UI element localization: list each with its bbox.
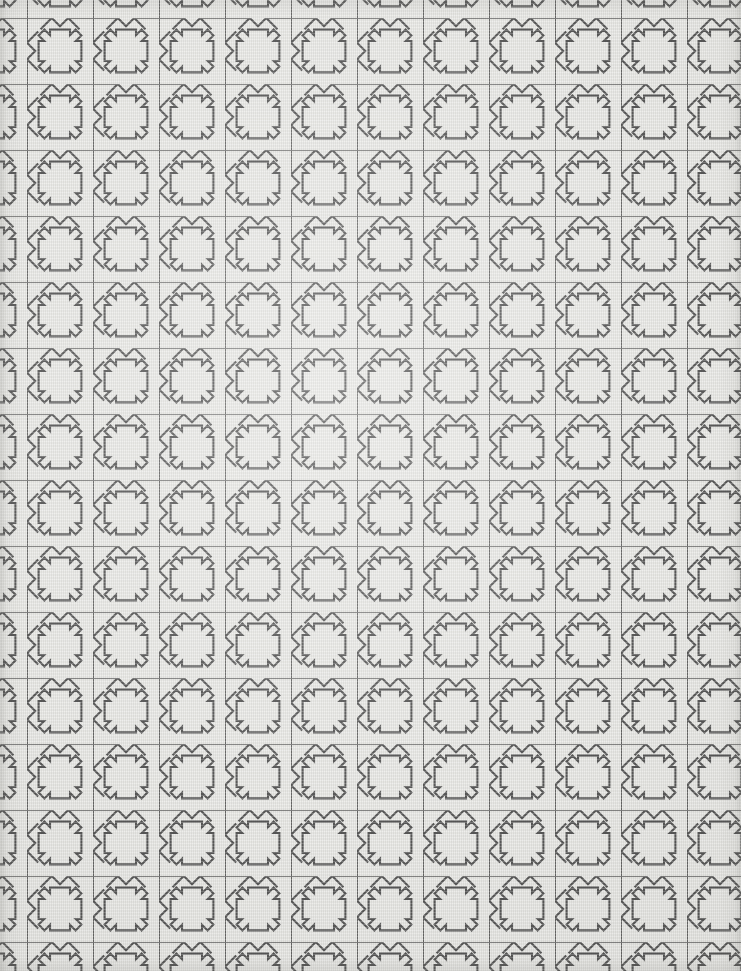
lattice-pattern-svg <box>0 0 741 971</box>
textile-pattern-image: Geometric Lattice Textile Pattern Seamle… <box>0 0 741 971</box>
pattern-fill-rect <box>0 0 741 971</box>
